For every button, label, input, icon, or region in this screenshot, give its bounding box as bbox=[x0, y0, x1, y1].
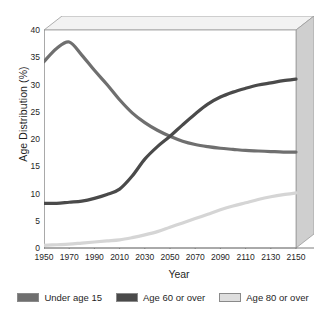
legend-item[interactable]: Age 80 or over bbox=[219, 292, 308, 303]
legend-item[interactable]: Age 60 or over bbox=[116, 292, 205, 303]
x-tick-label: 1950 bbox=[35, 252, 54, 262]
legend-label: Age 60 or over bbox=[143, 292, 205, 303]
chart-legend: Under age 15Age 60 or overAge 80 or over bbox=[0, 292, 326, 303]
x-tick-label: 2030 bbox=[135, 252, 154, 262]
legend-swatch bbox=[116, 293, 138, 302]
x-tick-label: 2010 bbox=[110, 252, 129, 262]
x-tick-label: 2130 bbox=[261, 252, 280, 262]
x-tick-label: 2070 bbox=[186, 252, 205, 262]
x-tick-label: 2150 bbox=[287, 252, 306, 262]
x-tick-label: 2090 bbox=[211, 252, 230, 262]
x-tick-label: 1990 bbox=[85, 252, 104, 262]
x-tick-label: 2050 bbox=[161, 252, 180, 262]
legend-label: Under age 15 bbox=[44, 292, 102, 303]
age-distribution-chart: Age Distribution (%) 0510152025303540 19… bbox=[0, 0, 326, 318]
x-tick-label: 1970 bbox=[60, 252, 79, 262]
legend-item[interactable]: Under age 15 bbox=[17, 292, 102, 303]
legend-label: Age 80 or over bbox=[246, 292, 308, 303]
legend-swatch bbox=[17, 293, 39, 302]
legend-swatch bbox=[219, 293, 241, 302]
x-tick-label: 2110 bbox=[236, 252, 254, 262]
x-axis-title: Year bbox=[44, 268, 314, 280]
